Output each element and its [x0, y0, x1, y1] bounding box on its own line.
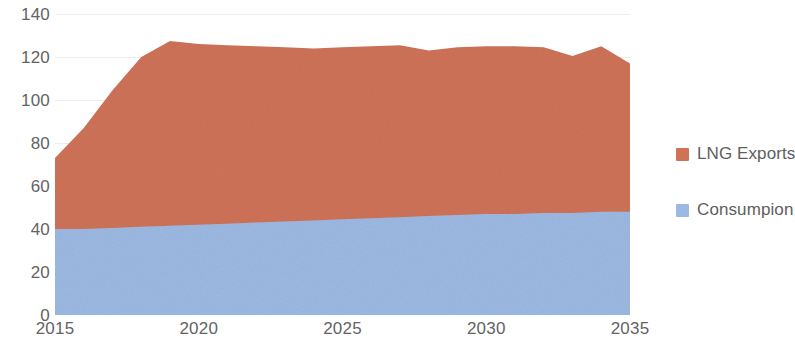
y-axis-tick-140: 140 — [4, 6, 50, 23]
y-axis-tick-80: 80 — [4, 135, 50, 152]
x-axis-tick-2030: 2030 — [467, 320, 506, 337]
plot-area — [55, 14, 630, 315]
x-axis: 2015 2020 2025 2030 2035 — [55, 320, 630, 347]
y-axis-tick-60: 60 — [4, 178, 50, 195]
x-axis-tick-2035: 2035 — [611, 320, 650, 337]
legend-item-consumpion[interactable]: Consumpion — [676, 199, 795, 221]
legend-label-lng-exports: LNG Exports — [697, 144, 795, 164]
y-axis-tick-40: 40 — [4, 221, 50, 238]
area-chart-svg — [55, 14, 630, 315]
x-axis-tick-2020: 2020 — [179, 320, 218, 337]
y-axis-tick-20: 20 — [4, 264, 50, 281]
chart-legend: LNG Exports Consumpion — [676, 143, 795, 255]
legend-swatch-lng-exports-icon — [676, 148, 689, 161]
x-axis-tick-2015: 2015 — [36, 320, 75, 337]
legend-label-consumpion: Consumpion — [697, 200, 793, 220]
legend-swatch-consumpion-icon — [676, 204, 689, 217]
y-axis-tick-120: 120 — [4, 49, 50, 66]
area-series-consumpion — [55, 212, 630, 315]
x-axis-tick-2025: 2025 — [323, 320, 362, 337]
y-axis-tick-100: 100 — [4, 92, 50, 109]
legend-item-lng-exports[interactable]: LNG Exports — [676, 143, 795, 165]
y-axis: 140 120 100 80 60 40 20 0 — [0, 0, 50, 347]
stacked-area-chart: 140 120 100 80 60 40 20 0 — [0, 0, 795, 347]
